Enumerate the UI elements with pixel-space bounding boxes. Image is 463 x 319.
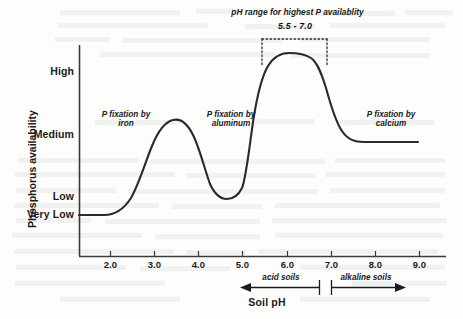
ph-range-callout-title: pH range for highest P availablity [215, 8, 380, 18]
x-tick-4: 4.0 [178, 259, 219, 270]
callout-calcium-line1: P fixation by [348, 110, 434, 119]
callout-iron-line1: P fixation by [83, 110, 169, 119]
availability-curve [79, 53, 418, 215]
zone-label-acid-soils: acid soils [243, 273, 319, 283]
y-tick-low: Low [4, 190, 74, 202]
x-tick-8: 8.0 [355, 259, 396, 270]
callout-aluminum-line2: aluminum [188, 119, 274, 128]
x-tick-2: 2.0 [90, 259, 131, 270]
chart-plot-area [0, 0, 463, 319]
callout-iron: P fixation by iron [83, 110, 169, 128]
zone-label-alkaline-soils: alkaline soils [328, 273, 404, 283]
callout-calcium-line2: calcium [348, 119, 434, 128]
x-tick-5: 5.0 [222, 259, 263, 270]
x-tick-6: 6.0 [267, 259, 308, 270]
x-tick-9: 9.0 [399, 259, 440, 270]
x-axis-ticks [111, 251, 420, 256]
alkaline-soils-arrowhead-icon [395, 283, 406, 292]
callout-aluminum-line1: P fixation by [188, 110, 274, 119]
x-axis-title: Soil pH [217, 296, 317, 308]
phosphorus-availability-chart: Phosphorus availability High Medium Low … [0, 0, 463, 319]
x-tick-7: 7.0 [311, 259, 352, 270]
y-tick-high: High [4, 65, 74, 77]
callout-calcium: P fixation by calcium [348, 110, 434, 128]
callout-iron-line2: iron [83, 119, 169, 128]
acid-soils-arrowhead-icon [240, 283, 251, 292]
y-tick-very-low: Very Low [4, 208, 74, 220]
x-tick-3: 3.0 [134, 259, 175, 270]
y-tick-medium: Medium [4, 128, 74, 140]
ph-range-callout-value: 5.5 - 7.0 [250, 21, 340, 31]
callout-aluminum: P fixation by aluminum [188, 110, 274, 128]
